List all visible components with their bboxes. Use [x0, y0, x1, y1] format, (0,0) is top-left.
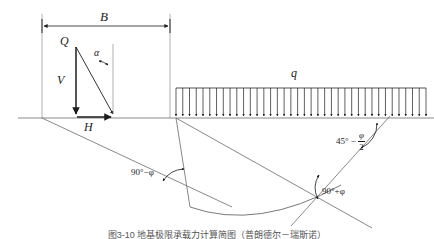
phi-over-two-fraction: φ 2 — [358, 131, 365, 152]
angle-label-90-plus-phi: 90°+φ — [322, 187, 345, 196]
fraction-denominator: 2 — [358, 143, 365, 152]
log-spiral-failure-arc — [190, 185, 341, 215]
load-label-V: V — [57, 74, 64, 86]
left-slip-plane — [42, 118, 232, 207]
surcharge-load-group — [176, 88, 426, 116]
load-label-H: H — [84, 121, 93, 133]
wedge-right-edge — [176, 118, 190, 207]
surcharge-arrow-set — [176, 88, 426, 116]
figure-caption: 图3-10 地基极限承载力计算简图（普朗德尔－瑞斯诺） — [0, 228, 434, 239]
angle-label-alpha: α — [94, 48, 99, 58]
dimension-label-B: B — [100, 10, 108, 23]
angle-45-prefix: 45° − — [336, 137, 356, 146]
surcharge-label-q: q — [291, 67, 297, 79]
fraction-numerator: φ — [358, 131, 365, 140]
angle-label-90-minus-phi: 90°−φ — [131, 168, 154, 177]
dimension-B — [42, 14, 170, 118]
alpha-angle-arc — [99, 61, 108, 65]
figure-container: B Q V H α q 90°−φ 45° − φ 2 90°+φ 图3-10 … — [0, 0, 434, 239]
load-label-Q: Q — [60, 35, 69, 47]
angle-label-45-minus-half-phi: 45° − φ 2 — [336, 131, 365, 152]
